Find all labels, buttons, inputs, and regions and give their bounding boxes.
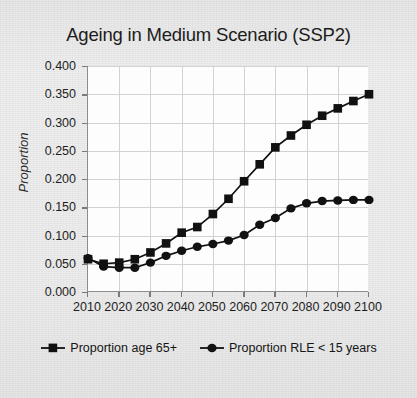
- data-point-square: [146, 248, 155, 257]
- series-layer: [88, 66, 369, 292]
- legend-marker-circle-icon: [199, 341, 225, 355]
- plot-area: [87, 66, 368, 292]
- data-point-circle: [224, 236, 233, 244]
- data-point-square: [131, 255, 140, 264]
- series-line: [88, 200, 369, 268]
- x-tick-mark: [87, 292, 88, 297]
- x-tick-mark: [118, 292, 119, 297]
- data-point-circle: [255, 221, 264, 229]
- data-point-circle: [83, 254, 92, 262]
- data-point-circle: [349, 196, 358, 204]
- data-point-square: [302, 120, 311, 129]
- y-tick-label: 0.300: [30, 116, 76, 130]
- data-point-square: [224, 194, 233, 203]
- data-point-square: [349, 97, 358, 106]
- data-point-circle: [177, 247, 186, 255]
- data-point-circle: [193, 243, 202, 251]
- chart-legend: Proportion age 65+Proportion RLE < 15 ye…: [0, 341, 417, 355]
- y-tick-label: 0.350: [30, 87, 76, 101]
- data-point-circle: [115, 264, 124, 272]
- x-tick-mark: [181, 292, 182, 297]
- chart-title: Ageing in Medium Scenario (SSP2): [0, 24, 417, 46]
- x-tick-mark: [212, 292, 213, 297]
- legend-item[interactable]: Proportion age 65+: [40, 341, 177, 355]
- y-tick-label: 0.000: [30, 285, 76, 299]
- data-point-circle: [302, 199, 311, 207]
- data-point-square: [240, 177, 249, 186]
- data-point-square: [365, 90, 374, 99]
- y-tick-label: 0.100: [30, 229, 76, 243]
- data-point-square: [193, 223, 202, 232]
- y-tick-label: 0.050: [30, 257, 76, 271]
- x-tick-mark: [243, 292, 244, 297]
- legend-item[interactable]: Proportion RLE < 15 years: [199, 341, 377, 355]
- y-tick-label: 0.150: [30, 200, 76, 214]
- x-tick-mark: [306, 292, 307, 297]
- x-tick-mark: [368, 292, 369, 297]
- data-point-square: [287, 131, 296, 140]
- x-tick-mark: [274, 292, 275, 297]
- data-point-circle: [240, 231, 249, 239]
- data-point-circle: [271, 214, 280, 222]
- data-point-circle: [99, 262, 108, 270]
- legend-marker-square-icon: [40, 341, 66, 355]
- data-point-square: [255, 160, 264, 169]
- y-tick-label: 0.250: [30, 144, 76, 158]
- data-point-circle: [286, 204, 295, 212]
- y-tick-label: 0.200: [30, 172, 76, 186]
- data-point-square: [318, 111, 327, 120]
- data-point-square: [162, 239, 171, 248]
- y-tick-label: 0.400: [30, 59, 76, 73]
- x-tick-mark: [149, 292, 150, 297]
- data-point-circle: [333, 196, 342, 204]
- data-point-circle: [364, 196, 373, 204]
- data-point-square: [333, 104, 342, 113]
- figure-canvas: Ageing in Medium Scenario (SSP2) Proport…: [0, 0, 417, 398]
- legend-label: Proportion RLE < 15 years: [229, 341, 377, 355]
- data-point-square: [271, 143, 280, 152]
- x-tick-mark: [337, 292, 338, 297]
- data-point-circle: [318, 197, 327, 205]
- x-tick-label: 2100: [346, 300, 390, 314]
- legend-label: Proportion age 65+: [70, 341, 177, 355]
- data-point-circle: [208, 240, 217, 248]
- y-axis-label: Proportion: [16, 123, 31, 203]
- data-point-circle: [146, 258, 155, 266]
- data-point-square: [177, 228, 186, 237]
- data-point-circle: [130, 264, 139, 272]
- data-point-square: [209, 210, 218, 219]
- data-point-circle: [161, 252, 170, 260]
